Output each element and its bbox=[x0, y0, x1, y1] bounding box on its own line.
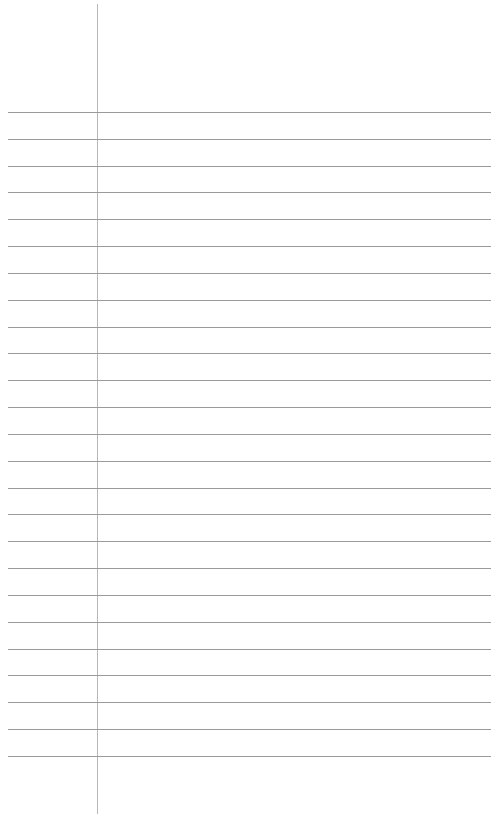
ruled-line bbox=[8, 622, 491, 623]
ruled-line bbox=[8, 488, 491, 489]
ruled-line bbox=[8, 595, 491, 596]
ruled-line bbox=[8, 166, 491, 167]
ruled-line bbox=[8, 729, 491, 730]
ruled-line bbox=[8, 273, 491, 274]
ruled-line bbox=[8, 649, 491, 650]
ruled-line bbox=[8, 514, 491, 515]
ruled-line bbox=[8, 219, 491, 220]
ruled-line bbox=[8, 434, 491, 435]
ruled-line bbox=[8, 327, 491, 328]
ruled-line bbox=[8, 246, 491, 247]
ruled-line bbox=[8, 300, 491, 301]
ruled-line bbox=[8, 541, 491, 542]
ruled-line bbox=[8, 675, 491, 676]
ruled-line bbox=[8, 380, 491, 381]
ruled-line bbox=[8, 139, 491, 140]
ruled-line bbox=[8, 192, 491, 193]
ruled-line bbox=[8, 568, 491, 569]
ruled-line bbox=[8, 407, 491, 408]
ruled-line bbox=[8, 353, 491, 354]
ruled-line bbox=[8, 756, 491, 757]
margin-line bbox=[97, 4, 98, 814]
ruled-line bbox=[8, 112, 491, 113]
ruled-line bbox=[8, 461, 491, 462]
lined-paper bbox=[0, 0, 493, 816]
ruled-line bbox=[8, 702, 491, 703]
